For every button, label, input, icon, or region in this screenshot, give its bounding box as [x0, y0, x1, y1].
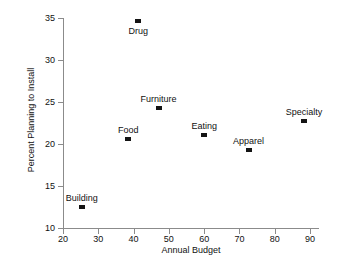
- x-tick-label: 80: [263, 234, 287, 244]
- y-tick-label: 10: [33, 223, 55, 233]
- data-point-marker: [125, 137, 131, 141]
- y-tick-mark: [58, 60, 63, 61]
- y-tick-label: 30: [33, 55, 55, 65]
- y-tick-label: 15: [33, 181, 55, 191]
- data-point-marker: [201, 133, 207, 137]
- y-tick-label: 25: [33, 97, 55, 107]
- data-point-label: Furniture: [141, 94, 177, 104]
- y-tick-mark: [58, 144, 63, 145]
- x-tick-label: 90: [298, 234, 322, 244]
- y-tick-mark: [58, 186, 63, 187]
- y-axis-line: [63, 18, 64, 229]
- y-axis-title: Percent Planning to Install: [26, 40, 36, 200]
- y-tick-mark: [58, 18, 63, 19]
- data-point-label: Building: [66, 193, 98, 203]
- data-point-marker: [156, 106, 162, 110]
- x-tick-label: 40: [122, 234, 146, 244]
- x-tick-label: 70: [227, 234, 251, 244]
- data-point-label: Eating: [191, 121, 217, 131]
- data-point-marker: [301, 119, 307, 123]
- data-point-label: Specialty: [286, 107, 323, 117]
- data-point-label: Drug: [128, 26, 148, 36]
- x-tick-label: 60: [192, 234, 216, 244]
- y-tick-mark: [58, 102, 63, 103]
- x-tick-label: 50: [157, 234, 181, 244]
- x-tick-label: 30: [86, 234, 110, 244]
- data-point-label: Food: [118, 125, 139, 135]
- data-point-marker: [246, 148, 252, 152]
- data-point-marker: [79, 205, 85, 209]
- data-point-label: Apparel: [233, 136, 264, 146]
- x-tick-label: 20: [51, 234, 75, 244]
- y-tick-label: 20: [33, 139, 55, 149]
- x-axis-title: Annual Budget: [63, 245, 319, 255]
- data-point-marker: [135, 19, 141, 23]
- scatter-plot: 101520253035 2030405060708090 BuildingFo…: [0, 0, 340, 262]
- y-tick-label: 35: [33, 13, 55, 23]
- x-axis-line: [63, 228, 319, 229]
